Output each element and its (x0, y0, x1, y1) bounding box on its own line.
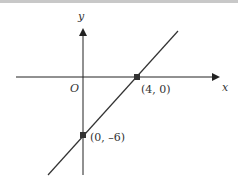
graph: y x O (4, 0) (0, –6) (0, 0, 238, 181)
graph-line (48, 31, 178, 175)
y-axis-label: y (77, 10, 85, 23)
point-y-intercept (80, 132, 86, 138)
x-axis-label: x (222, 81, 229, 94)
point-x-intercept (134, 74, 140, 80)
origin-label: O (70, 82, 79, 95)
point-label-y-intercept: (0, –6) (90, 131, 125, 144)
point-label-x-intercept: (4, 0) (141, 83, 171, 96)
